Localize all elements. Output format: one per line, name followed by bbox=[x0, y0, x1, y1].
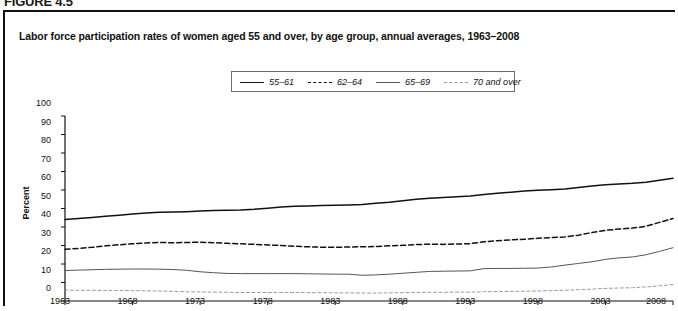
y-axis-title: Percent bbox=[21, 173, 31, 233]
y-axis-tick-label: 40 bbox=[27, 209, 51, 219]
y-axis-tick-label: 60 bbox=[27, 172, 51, 182]
legend-line-swatch bbox=[376, 78, 400, 86]
figure-number: FIGURE 4.5 bbox=[4, 0, 73, 9]
legend-line-swatch bbox=[308, 78, 332, 86]
series-line-62-64 bbox=[65, 218, 673, 249]
x-axis-tick-label: 2008 bbox=[636, 296, 676, 306]
y-axis-tick-label: 90 bbox=[27, 117, 51, 127]
chart-title: Labor force participation rates of women… bbox=[19, 30, 519, 42]
legend-item-label: 55–61 bbox=[269, 77, 294, 87]
legend-item-label: 65–69 bbox=[405, 77, 430, 87]
legend-item: 65–69 bbox=[376, 77, 430, 87]
y-axis-tick-label: 0 bbox=[27, 283, 51, 293]
y-axis-tick-label: 10 bbox=[27, 265, 51, 275]
x-axis-tick-label: 1978 bbox=[243, 296, 283, 306]
x-axis-tick-label: 1968 bbox=[108, 296, 148, 306]
legend-line-swatch bbox=[240, 78, 264, 86]
legend-item-label: 70 and over bbox=[473, 77, 521, 87]
legend-item: 70 and over bbox=[444, 77, 521, 87]
x-axis-tick-label: 1998 bbox=[513, 296, 553, 306]
y-axis-tick-label: 80 bbox=[27, 135, 51, 145]
y-axis-tick-label: 50 bbox=[27, 191, 51, 201]
y-axis-tick-label: 20 bbox=[27, 246, 51, 256]
series-line-70-and-over bbox=[65, 285, 673, 294]
legend-item-label: 62–64 bbox=[337, 77, 362, 87]
series-line-55-61 bbox=[65, 178, 673, 219]
legend-item: 62–64 bbox=[308, 77, 362, 87]
legend-item: 55–61 bbox=[240, 77, 294, 87]
x-axis-tick-label: 1983 bbox=[310, 296, 350, 306]
x-axis-tick-label: 1963 bbox=[40, 296, 80, 306]
x-axis-tick-label: 1973 bbox=[175, 296, 215, 306]
x-axis-tick-label: 2003 bbox=[580, 296, 620, 306]
series-line-65-69 bbox=[65, 248, 673, 276]
legend-line-swatch bbox=[444, 78, 468, 86]
chart-legend: 55–6162–6465–6970 and over bbox=[231, 71, 515, 92]
line-chart-plot bbox=[5, 12, 678, 311]
x-axis-tick-label: 1993 bbox=[445, 296, 485, 306]
figure-panel: Labor force participation rates of women… bbox=[3, 10, 675, 306]
y-axis-tick-label: 100 bbox=[27, 98, 51, 108]
x-axis-tick-label: 1988 bbox=[378, 296, 418, 306]
y-axis-tick-label: 70 bbox=[27, 154, 51, 164]
y-axis-tick-label: 30 bbox=[27, 228, 51, 238]
